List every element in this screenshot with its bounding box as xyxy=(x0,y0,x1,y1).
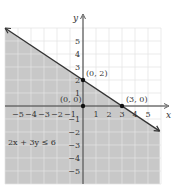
y-axis-label: y xyxy=(72,13,79,23)
y-tick-label: −2 xyxy=(68,128,80,137)
y-tick-label: −3 xyxy=(68,141,80,150)
x-tick-label: 3 xyxy=(119,110,124,119)
x-tick-label: −2 xyxy=(51,110,63,119)
point-label: (0, 0) xyxy=(60,95,82,104)
y-tick-label: 4 xyxy=(75,50,80,59)
data-point xyxy=(81,104,85,108)
y-tick-label: −4 xyxy=(68,154,80,163)
x-tick-label: 2 xyxy=(106,110,111,119)
y-tick-label: −1 xyxy=(68,115,80,124)
x-tick-label: −3 xyxy=(38,110,50,119)
x-tick-label: 1 xyxy=(93,110,98,119)
inequality-label: 2x + 3y ≤ 6 xyxy=(8,138,56,147)
point-label: (3, 0) xyxy=(126,95,148,104)
point-label: (0, 2) xyxy=(86,69,108,78)
x-tick-label: −4 xyxy=(25,110,37,119)
x-tick-label: 5 xyxy=(145,110,150,119)
y-tick-label: −5 xyxy=(68,167,80,176)
y-tick-label: 3 xyxy=(75,63,80,72)
data-point xyxy=(81,78,85,82)
data-point xyxy=(120,104,124,108)
inequality-graph: xy−5−4−3−2−112345−5−4−3−2−112345(0, 2)(0… xyxy=(0,0,179,194)
x-axis-label: x xyxy=(166,110,171,120)
x-tick-label: −5 xyxy=(12,110,24,119)
y-tick-label: 5 xyxy=(75,37,80,46)
